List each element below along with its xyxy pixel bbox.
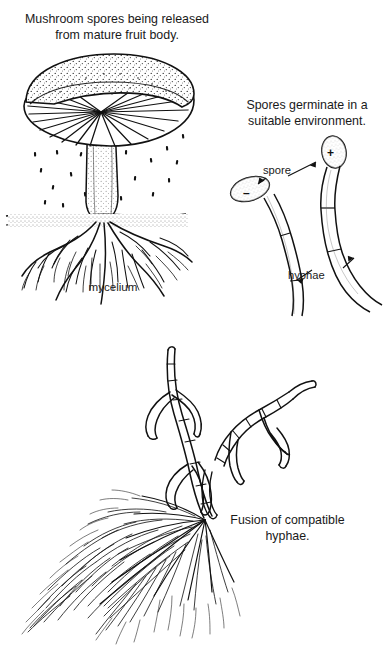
soil-stipple [6, 214, 188, 228]
hypha-right-septa [217, 400, 281, 463]
hypha-minus-left-wall [264, 198, 294, 316]
hypha-minus-shade [267, 196, 294, 314]
hypha-minus-right-wall [274, 194, 304, 316]
label-hyphae: hyphae [288, 268, 344, 282]
mating-type-plus-symbol: + [327, 146, 334, 160]
label-mycelium: mycelium [58, 280, 168, 295]
caption-spore-germination: Spores germinate in a suitable environme… [228, 98, 386, 130]
hypha-left-septa [167, 364, 211, 504]
germinating-spores-panel [227, 134, 382, 316]
mushroom-fruit-body [6, 54, 194, 304]
spore-minus-with-hypha [227, 172, 303, 316]
caption-hyphal-fusion: Fusion of compatible hyphae. [205, 513, 370, 545]
hypha-plus-right-wall [335, 166, 382, 305]
hypha-plus-septa [321, 208, 341, 252]
fusing-hypha-right [202, 381, 316, 519]
label-spore: spore [263, 163, 315, 177]
hyphal-fusion-panel [22, 347, 316, 644]
spore-plus-with-hypha [319, 134, 382, 312]
caption-spore-release: Mushroom spores being released from matu… [12, 12, 222, 44]
mating-type-minus-symbol: – [243, 186, 250, 200]
